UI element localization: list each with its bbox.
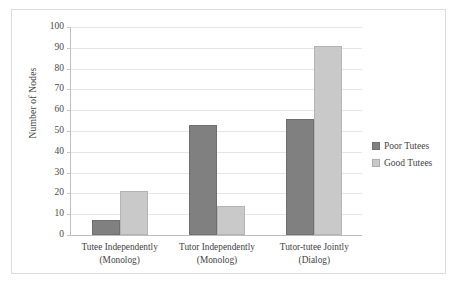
gridline-0 xyxy=(70,235,362,236)
x-category-label: Tutor-tutee Jointly(Dialog) xyxy=(266,241,363,266)
x-category-label-line: (Monolog) xyxy=(71,254,168,267)
bar[interactable] xyxy=(189,125,217,235)
y-tick-label-20: 20 xyxy=(36,188,64,198)
x-axis-category-labels: Tutee Independently(Monolog)Tutor Indepe… xyxy=(71,241,363,266)
plot-area: 1009080706050403020100 xyxy=(70,27,362,235)
x-category-label-line: Tutor-tutee Jointly xyxy=(280,242,349,252)
y-tick-label-70: 70 xyxy=(36,84,64,94)
y-tick-label-80: 80 xyxy=(36,64,64,74)
x-category-label-line: Tutor Independently xyxy=(179,242,255,252)
x-category-label: Tutee Independently(Monolog) xyxy=(71,241,168,266)
y-tick-label-60: 60 xyxy=(36,105,64,115)
bar[interactable] xyxy=(92,220,120,235)
x-category-label-line: (Dialog) xyxy=(266,254,363,267)
y-tick-label-50: 50 xyxy=(36,126,64,136)
x-category-label-line: Tutee Independently xyxy=(81,242,157,252)
legend-label: Poor Tutees xyxy=(384,141,429,151)
y-tick-label-0: 0 xyxy=(36,230,64,240)
legend: Poor TuteesGood Tutees xyxy=(372,141,432,168)
y-tick-label-100: 100 xyxy=(36,22,64,32)
x-category-label-line: (Monolog) xyxy=(168,254,265,267)
legend-label: Good Tutees xyxy=(384,158,432,168)
y-tick-label-30: 30 xyxy=(36,168,64,178)
bar[interactable] xyxy=(286,119,314,235)
bar-groups xyxy=(71,27,362,235)
bar-group xyxy=(265,27,362,235)
x-category-label: Tutor Independently(Monolog) xyxy=(168,241,265,266)
y-tick-label-90: 90 xyxy=(36,43,64,53)
bar[interactable] xyxy=(120,191,148,235)
bar-group xyxy=(71,27,168,235)
bar[interactable] xyxy=(217,206,245,235)
legend-item[interactable]: Poor Tutees xyxy=(372,141,432,151)
legend-swatch-icon xyxy=(372,159,380,167)
legend-swatch-icon xyxy=(372,142,380,150)
bar-group xyxy=(168,27,265,235)
bar[interactable] xyxy=(314,46,342,235)
y-tick-label-40: 40 xyxy=(36,147,64,157)
chart-figure: Number of Nodes 1009080706050403020100 T… xyxy=(11,9,446,274)
y-tick-mark-0 xyxy=(67,235,71,236)
legend-item[interactable]: Good Tutees xyxy=(372,158,432,168)
y-tick-label-10: 10 xyxy=(36,209,64,219)
